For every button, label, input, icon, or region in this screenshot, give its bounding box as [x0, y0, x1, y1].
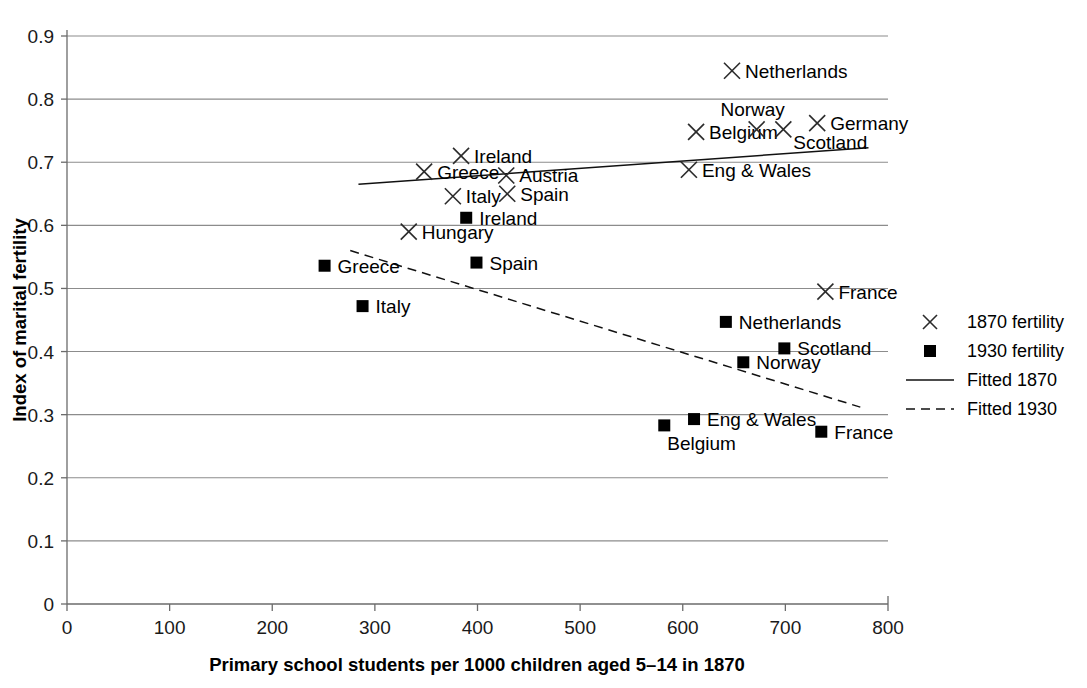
data-point-1930-ireland: [460, 212, 472, 224]
data-point-1870-germany: [809, 115, 825, 131]
point-label-1930-belgium: Belgium: [667, 433, 736, 454]
x-tick-label-800: 800: [872, 617, 904, 638]
data-point-1870-italy: [445, 188, 461, 204]
x-tick-label-300: 300: [359, 617, 391, 638]
point-label-1930-ireland: Ireland: [479, 208, 537, 229]
x-axis-title: Primary school students per 1000 childre…: [209, 654, 745, 675]
y-tick-label-0.6: 0.6: [28, 215, 54, 236]
point-label-1870-italy: Italy: [466, 186, 501, 207]
data-point-1870-eng-wales: [681, 162, 697, 178]
y-tick-label-0.9: 0.9: [28, 26, 54, 47]
data-point-1870-hungary: [401, 224, 417, 240]
data-point-1930-eng-wales: [688, 413, 700, 425]
point-label-1870-france: France: [838, 282, 897, 303]
point-label-1930-greece: Greece: [338, 256, 400, 277]
point-label-1870-ireland: Ireland: [474, 146, 532, 167]
data-point-1870-spain: [499, 186, 515, 202]
point-label-1870-eng-wales: Eng & Wales: [702, 160, 811, 181]
legend-marker-1930-fertility: [924, 345, 936, 357]
chart-svg: 00.10.20.30.40.50.60.70.80.9010020030040…: [0, 0, 1087, 688]
data-point-1930-belgium: [658, 419, 670, 431]
data-point-1930-greece: [319, 260, 331, 272]
y-tick-label-0.7: 0.7: [28, 152, 54, 173]
legend-label-fitted-1870: Fitted 1870: [967, 370, 1057, 390]
data-point-1930-spain: [470, 257, 482, 269]
x-tick-label-100: 100: [154, 617, 186, 638]
point-label-1870-spain: Spain: [520, 184, 569, 205]
x-tick-label-400: 400: [462, 617, 494, 638]
point-label-1870-netherlands: Netherlands: [745, 61, 847, 82]
x-tick-label-0: 0: [62, 617, 73, 638]
y-tick-label-0.8: 0.8: [28, 89, 54, 110]
data-point-1870-netherlands: [724, 63, 740, 79]
data-point-1930-netherlands: [720, 316, 732, 328]
x-tick-label-600: 600: [667, 617, 699, 638]
y-tick-label-0.4: 0.4: [28, 342, 55, 363]
point-label-1930-spain: Spain: [489, 253, 538, 274]
y-tick-label-0: 0: [43, 594, 54, 615]
y-tick-label-0.3: 0.3: [28, 405, 54, 426]
series-1930-group: GreeceItalySpainIrelandNetherlandsScotla…: [319, 208, 894, 455]
x-tick-label-200: 200: [256, 617, 288, 638]
y-tick-label-0.2: 0.2: [28, 468, 54, 489]
point-label-1870-norway: Norway: [720, 99, 785, 120]
data-point-1930-italy: [357, 300, 369, 312]
legend-label-fitted-1930: Fitted 1930: [967, 399, 1057, 419]
data-point-1870-belgium: [688, 124, 704, 140]
data-point-1870-greece: [416, 164, 432, 180]
point-label-1930-netherlands: Netherlands: [739, 312, 841, 333]
point-label-1930-norway: Norway: [756, 352, 821, 373]
y-axis-title: Index of marital fertility: [9, 218, 30, 422]
data-point-1870-austria: [498, 167, 514, 183]
legend-marker-1870-fertility: [923, 315, 937, 329]
fertility-scatter-chart: 00.10.20.30.40.50.60.70.80.9010020030040…: [0, 0, 1087, 688]
y-tick-label-0.5: 0.5: [28, 278, 54, 299]
legend-group: 1870 fertility1930 fertilityFitted 1870F…: [906, 312, 1064, 419]
legend-label-1930-fertility: 1930 fertility: [967, 341, 1064, 361]
legend-label-1870-fertility: 1870 fertility: [967, 312, 1064, 332]
point-label-1870-scotland: Scotland: [793, 132, 867, 153]
point-label-1930-italy: Italy: [376, 296, 411, 317]
point-label-1930-eng-wales: Eng & Wales: [707, 409, 816, 430]
point-label-1870-belgium: Belgium: [709, 122, 778, 143]
data-point-1870-france: [817, 284, 833, 300]
point-label-1870-germany: Germany: [830, 113, 909, 134]
data-point-1930-norway: [737, 356, 749, 368]
point-label-1930-france: France: [834, 422, 893, 443]
y-tick-label-0.1: 0.1: [28, 531, 54, 552]
x-tick-label-500: 500: [564, 617, 596, 638]
x-tick-label-700: 700: [770, 617, 802, 638]
data-point-1930-france: [815, 426, 827, 438]
